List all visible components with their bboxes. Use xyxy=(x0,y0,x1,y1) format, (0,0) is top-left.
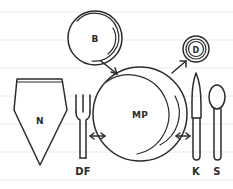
knife: K xyxy=(192,73,201,177)
fork-neck-and-handle xyxy=(76,112,90,158)
fork-tines xyxy=(76,95,90,112)
main-plate: MP xyxy=(93,67,187,161)
dinner-fork-label: DF xyxy=(75,166,91,177)
place-setting-canvas: B D N DF MP xyxy=(0,0,233,189)
dinner-fork: DF xyxy=(75,95,91,177)
drink-glass: D xyxy=(183,36,209,62)
drink-glass-label: D xyxy=(193,46,200,55)
place-setting-diagram: B D N DF MP xyxy=(0,0,233,189)
pointer-arrow-glass-shaft xyxy=(172,61,186,73)
knife-label: K xyxy=(192,166,201,177)
bread-plate-label: B xyxy=(91,34,98,44)
bread-plate: B xyxy=(68,11,122,65)
pointer-arrow-glass xyxy=(172,61,186,73)
spoon: S xyxy=(209,85,225,177)
main-plate-label: MP xyxy=(132,110,148,120)
napkin-label: N xyxy=(36,116,44,126)
spoon-label: S xyxy=(213,166,221,177)
spoon-bowl xyxy=(209,85,225,109)
